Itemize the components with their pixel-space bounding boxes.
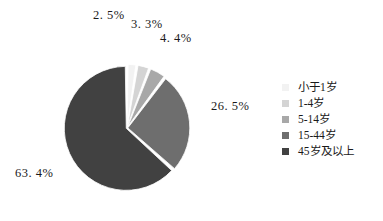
legend-item-4[interactable]: 45岁及以上 [282, 144, 382, 159]
legend-swatch-icon-0 [282, 84, 289, 91]
legend-item-0[interactable]: 小于1岁 [282, 80, 382, 95]
pie-slice-group [64, 64, 190, 190]
legend-swatch-icon-4 [282, 148, 289, 155]
legend-item-1[interactable]: 1-4岁 [282, 96, 382, 111]
legend-label-3: 15-44岁 [298, 129, 336, 142]
slice-value-label-2: 4. 4% [160, 31, 192, 46]
slice-value-label-1: 3. 3% [131, 17, 163, 32]
legend-swatch-icon-3 [282, 132, 289, 139]
pie-chart-figure: 2. 5% 3. 3% 4. 4% 26. 5% 63. 4% 小于1岁 1-4… [0, 0, 383, 221]
slice-value-label-0: 2. 5% [93, 8, 125, 23]
legend-item-3[interactable]: 15-44岁 [282, 128, 382, 143]
legend-item-2[interactable]: 5-14岁 [282, 112, 382, 127]
legend-label-2: 5-14岁 [298, 113, 330, 126]
legend-label-4: 45岁及以上 [298, 145, 354, 158]
legend-swatch-icon-1 [282, 100, 289, 107]
slice-value-label-3: 26. 5% [211, 99, 249, 114]
legend-label-1: 1-4岁 [298, 97, 324, 110]
legend-swatch-icon-2 [282, 116, 289, 123]
slice-value-label-4: 63. 4% [15, 166, 53, 181]
legend-label-0: 小于1岁 [298, 81, 337, 94]
chart-legend: 小于1岁 1-4岁 5-14岁 15-44岁 45岁及以上 [282, 80, 382, 160]
